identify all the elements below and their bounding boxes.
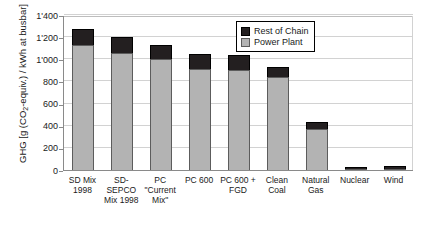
legend-swatch-icon — [241, 38, 250, 47]
bar-group[interactable] — [72, 29, 94, 170]
x-tick-label-line: Wind — [366, 175, 422, 185]
bar-segment-rest-of-chain[interactable] — [150, 45, 172, 59]
bar-group[interactable] — [189, 54, 211, 170]
bar-segment-power-plant[interactable] — [72, 45, 94, 170]
gridline — [64, 14, 413, 15]
bar-group[interactable] — [150, 45, 172, 170]
legend-label: Rest of Chain — [254, 26, 309, 36]
y-tick-label: 1'200 — [24, 34, 58, 43]
y-tick-label: 200 — [24, 144, 58, 153]
y-axis-title: GHG [g (CO2-equiv.) / kWh at busbar] — [17, 4, 28, 164]
x-tick-label-line: Gas — [288, 185, 344, 195]
y-axis-title-subscript: 2 — [22, 107, 29, 111]
y-axis-title-prefix: GHG [g (CO — [17, 111, 28, 163]
ghg-stacked-bar-chart: GHG [g (CO2-equiv.) / kWh at busbar] 020… — [0, 0, 436, 227]
bar-segment-power-plant[interactable] — [111, 53, 133, 170]
y-tick-label: 0 — [24, 167, 58, 176]
bar-segment-power-plant[interactable] — [189, 69, 211, 170]
legend-item[interactable]: Power Plant — [241, 37, 309, 47]
bar-segment-rest-of-chain[interactable] — [267, 67, 289, 77]
y-tick-label: 400 — [24, 122, 58, 131]
bar-segment-power-plant[interactable] — [384, 169, 406, 170]
bar-group[interactable] — [111, 37, 133, 170]
x-tick-label-line: "Current — [132, 185, 188, 195]
y-tick-label: 600 — [24, 100, 58, 109]
bar-group[interactable] — [228, 55, 250, 170]
bar-segment-power-plant[interactable] — [267, 77, 289, 170]
y-tick-label: 1'400 — [24, 12, 58, 21]
y-tick-label: 1'000 — [24, 56, 58, 65]
chart-legend: Rest of ChainPower Plant — [236, 21, 315, 52]
legend-swatch-icon — [241, 27, 250, 36]
bar-group[interactable] — [345, 167, 367, 170]
bar-segment-rest-of-chain[interactable] — [72, 29, 94, 45]
y-tick-label: 800 — [24, 78, 58, 87]
bar-group[interactable] — [306, 122, 328, 170]
x-tick-label: Wind — [366, 175, 422, 185]
bar-segment-power-plant[interactable] — [306, 129, 328, 170]
bar-segment-power-plant[interactable] — [345, 169, 367, 170]
legend-label: Power Plant — [254, 37, 303, 47]
bar-segment-rest-of-chain[interactable] — [189, 54, 211, 69]
bar-segment-rest-of-chain[interactable] — [111, 37, 133, 53]
plot-top-border — [64, 16, 413, 17]
bar-segment-rest-of-chain[interactable] — [228, 55, 250, 71]
x-tick-label-line: Mix" — [132, 195, 188, 205]
y-axis-title-suffix: -equiv.) / kWh at busbar] — [17, 4, 28, 107]
y-tick-mark — [59, 171, 63, 172]
bar-group[interactable] — [267, 67, 289, 170]
bar-segment-power-plant[interactable] — [150, 59, 172, 170]
legend-item[interactable]: Rest of Chain — [241, 26, 309, 36]
bar-segment-rest-of-chain[interactable] — [306, 122, 328, 129]
bar-segment-power-plant[interactable] — [228, 70, 250, 170]
bar-group[interactable] — [384, 166, 406, 170]
